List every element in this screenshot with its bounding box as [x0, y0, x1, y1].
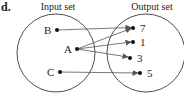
element-label: 3 [137, 52, 143, 64]
part-label: d. [1, 0, 11, 14]
dot-icon [75, 47, 79, 51]
element-label: A [64, 43, 72, 55]
input-element-c: C [47, 66, 62, 78]
output-element-1: 1 [131, 36, 146, 48]
input-set-title: Input set [41, 1, 76, 12]
input-element-a: A [64, 43, 79, 55]
arrow-a-to-3 [77, 49, 128, 57]
input-set-circle [17, 14, 95, 92]
dot-icon [128, 56, 132, 60]
output-set-circle [107, 14, 184, 92]
dot-icon [58, 70, 62, 74]
output-element-5: 5 [138, 67, 153, 79]
input-element-b: B [44, 24, 59, 36]
arrow-b-to-7 [57, 28, 131, 31]
arrow-c-to-5 [60, 72, 138, 73]
output-element-7: 7 [131, 22, 146, 34]
dot-icon [131, 40, 135, 44]
dot-icon [55, 28, 59, 32]
element-label: 5 [147, 67, 153, 79]
element-label: B [44, 24, 51, 36]
element-label: C [47, 66, 54, 78]
dot-icon [138, 71, 142, 75]
arrow-a-to-7 [77, 29, 131, 50]
element-label: 7 [140, 22, 146, 34]
dot-icon [131, 26, 135, 30]
mapping-diagram: d. Input set Output set B A C 7 1 3 5 [0, 0, 184, 94]
element-label: 1 [140, 36, 146, 48]
output-set-title: Output set [131, 1, 173, 12]
output-element-3: 3 [128, 52, 143, 64]
